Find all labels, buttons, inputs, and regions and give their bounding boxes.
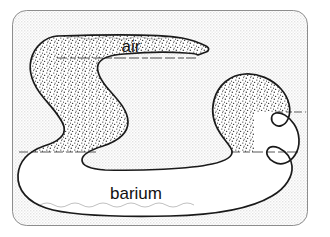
label-barium: barium	[110, 184, 162, 203]
label-air: air	[122, 37, 141, 56]
figure-container: air barium	[0, 0, 330, 237]
barium-air-colon-diagram: air barium	[0, 0, 330, 237]
